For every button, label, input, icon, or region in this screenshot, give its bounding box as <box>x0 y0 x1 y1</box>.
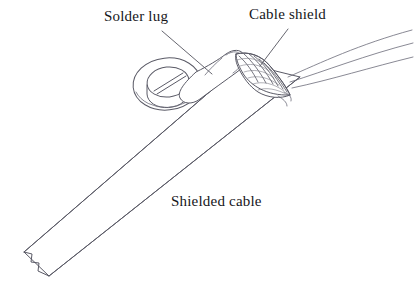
diagram-canvas: Solder lug Cable shield Shielded cable <box>0 0 414 282</box>
leader-cable-shield <box>260 29 288 66</box>
label-shielded-cable: Shielded cable <box>171 194 262 209</box>
technical-drawing <box>0 0 414 282</box>
label-cable-shield: Cable shield <box>249 7 326 22</box>
cable-upper-right-extension <box>288 30 413 88</box>
label-solder-lug: Solder lug <box>104 9 168 24</box>
